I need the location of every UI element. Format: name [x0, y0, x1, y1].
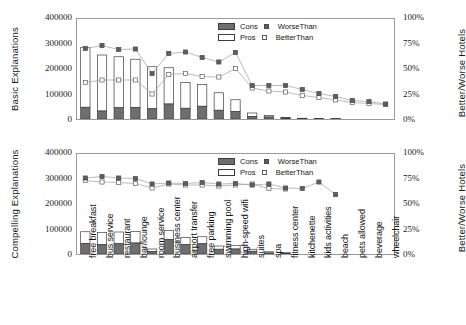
legend-label-pros-2: Pros — [240, 168, 256, 177]
worsethan-marker-7 — [200, 180, 204, 184]
worsethan-marker-icon — [264, 159, 269, 164]
worsethan-marker-10 — [250, 83, 254, 87]
worsethan-marker-2 — [117, 176, 121, 180]
bar-pros-0 — [81, 47, 90, 107]
bar-cons-12 — [281, 118, 290, 119]
y-tick-top-1: 300000 — [2, 38, 72, 48]
y-tick-bottom-4: 0 — [2, 249, 72, 259]
worsethan-marker-9 — [233, 50, 237, 54]
pros-swatch-icon — [218, 34, 235, 41]
bar-group-8 — [214, 93, 223, 119]
legend-label-pros: Pros — [240, 33, 256, 42]
worsethan-marker-17 — [367, 99, 371, 103]
worsethan-marker-6 — [183, 50, 187, 54]
worsethan-marker-14 — [317, 180, 321, 184]
y-tick-bottom-3: 100000 — [2, 224, 72, 234]
legend-entry-pros-2: Pros — [218, 168, 256, 177]
bar-group-1 — [97, 55, 106, 119]
betterthan-marker-12 — [283, 90, 287, 94]
right-tick-top-0: 100% — [403, 12, 443, 22]
y-tick-top-0: 400000 — [2, 12, 72, 22]
bar-cons-7 — [197, 106, 206, 119]
worsethan-marker-1 — [100, 43, 104, 47]
cons-swatch-icon — [218, 23, 235, 30]
bar-pros-7 — [197, 85, 206, 107]
worsethan-marker-9 — [233, 181, 237, 185]
bar-pros-9 — [231, 100, 240, 112]
y-tick-bottom-0: 400000 — [2, 147, 72, 157]
bar-cons-6 — [181, 108, 190, 119]
legend-label-worsethan: WorseThan — [278, 22, 317, 31]
bar-group-6 — [181, 83, 190, 120]
bar-pros-8 — [214, 93, 223, 111]
right-tick-bottom-0: 100% — [403, 147, 443, 157]
legend-entry-betterthan-2: BetterThan — [256, 168, 314, 177]
betterthan-marker-13 — [300, 93, 304, 97]
worsethan-marker-15 — [334, 192, 338, 196]
legend-entry-betterthan: BetterThan — [256, 33, 314, 42]
legend-entry-worsethan-2: WorseThan — [258, 157, 317, 166]
legend-label-cons: Cons — [240, 22, 258, 31]
worsethan-marker-icon — [264, 24, 269, 29]
bar-group-3 — [131, 59, 140, 119]
betterthan-marker-3 — [133, 181, 137, 185]
worsethan-marker-8 — [217, 60, 221, 64]
bar-pros-1 — [97, 55, 106, 111]
worsethan-marker-13 — [300, 186, 304, 190]
betterthan-marker-icon — [262, 35, 267, 40]
worsethan-marker-18 — [384, 102, 388, 106]
y-tick-top-4: 0 — [2, 114, 72, 124]
worsethan-marker-3 — [133, 176, 137, 180]
worsethan-marker-0 — [83, 46, 87, 50]
right-tick-bottom-1: 75% — [403, 173, 443, 183]
right-tick-bottom-2: 50% — [403, 198, 443, 208]
worsethan-marker-6 — [183, 181, 187, 185]
bar-group-11 — [264, 116, 273, 120]
figure-container: Basic Explanations Better/Worse Hotels C… — [0, 0, 466, 325]
y-tick-bottom-2: 200000 — [2, 198, 72, 208]
betterthan-marker-icon — [262, 170, 267, 175]
bar-cons-10 — [248, 117, 257, 120]
bar-pros-6 — [181, 83, 190, 109]
bar-group-13 — [298, 118, 307, 119]
bottom-right-axis-title: Better/Worse Hotels — [456, 164, 466, 253]
bar-cons-4 — [147, 109, 156, 119]
betterthan-marker-1 — [100, 180, 104, 184]
worsethan-marker-16 — [350, 98, 354, 102]
worsethan-marker-15 — [334, 94, 338, 98]
betterthan-marker-2 — [117, 78, 121, 82]
right-tick-bottom-4: 0% — [403, 249, 443, 259]
bar-cons-5 — [164, 104, 173, 119]
legend-label-worsethan-2: WorseThan — [278, 157, 317, 166]
legend-entry-cons: Cons — [218, 22, 258, 31]
betterthan-marker-2 — [117, 180, 121, 184]
top-right-axis-title: Better/Worse Hotels — [456, 29, 466, 118]
betterthan-marker-0 — [83, 80, 87, 84]
bar-group-14 — [314, 118, 323, 119]
right-tick-top-4: 0% — [403, 114, 443, 124]
legend-label-betterthan: BetterThan — [276, 33, 314, 42]
worsethan-marker-10 — [250, 183, 254, 187]
bar-cons-1 — [97, 111, 106, 119]
betterthan-marker-3 — [133, 78, 137, 82]
right-tick-bottom-3: 25% — [403, 224, 443, 234]
bar-group-10 — [248, 113, 257, 119]
right-tick-top-3: 25% — [403, 89, 443, 99]
worsethan-marker-5 — [167, 181, 171, 185]
betterthan-marker-6 — [183, 71, 187, 75]
pros-swatch-icon — [218, 169, 235, 176]
betterthan-marker-4 — [150, 186, 154, 190]
worsethan-marker-14 — [317, 91, 321, 95]
worsethan-marker-12 — [283, 186, 287, 190]
bar-pros-10 — [248, 113, 257, 117]
worsethan-marker-12 — [283, 83, 287, 87]
worsethan-marker-13 — [300, 87, 304, 91]
y-tick-top-3: 100000 — [2, 89, 72, 99]
legend-entry-cons-2: Cons — [218, 157, 258, 166]
worsethan-marker-8 — [217, 182, 221, 186]
betterthan-marker-11 — [267, 186, 271, 190]
worsethan-marker-5 — [167, 51, 171, 55]
bar-cons-8 — [214, 110, 223, 119]
bar-group-7 — [197, 85, 206, 120]
right-tick-top-1: 75% — [403, 38, 443, 48]
